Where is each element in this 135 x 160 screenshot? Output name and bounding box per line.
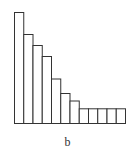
chart-caption: b: [0, 135, 135, 150]
bar-3: [33, 46, 42, 124]
bar-6: [61, 94, 70, 124]
bar-5: [52, 79, 61, 124]
bar-12: [116, 109, 125, 124]
bar-8: [79, 109, 88, 124]
bar-4: [42, 57, 51, 124]
bar-7: [70, 101, 79, 124]
bar-10: [98, 109, 107, 124]
bar-2: [24, 35, 33, 124]
bars-group: [15, 13, 126, 124]
bar-1: [15, 13, 24, 124]
bar-9: [89, 109, 98, 124]
bar-11: [107, 109, 116, 124]
